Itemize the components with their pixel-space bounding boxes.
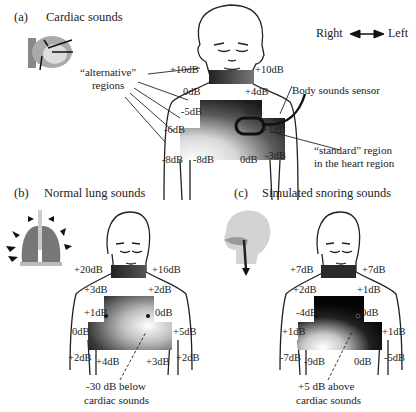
label-a-side-left: +1dB xyxy=(262,124,285,135)
annotation-c-note-2: cardiac sounds xyxy=(296,394,361,407)
label-c-mid-right: -4dB xyxy=(296,307,317,318)
neck-region-c xyxy=(321,265,356,278)
label-a-upper-right: 0dB xyxy=(183,86,201,97)
label-b-neck-right: +20dB xyxy=(74,264,103,275)
label-c-neck-left: +7dB xyxy=(362,264,385,275)
label-c-low-right-outer: -7dB xyxy=(280,352,301,363)
label-a-upper-left: +4dB xyxy=(245,86,268,97)
annotation-standard-region-2: in the heart region xyxy=(314,157,394,170)
label-c-neck-right: +7dB xyxy=(290,264,313,275)
label-c-low-left-inner: 0dB xyxy=(354,356,372,367)
label-a-side-right: -6dB xyxy=(164,124,185,135)
label-a-low-left-outer: -3dB xyxy=(265,150,286,161)
label-b-side-right: 0dB xyxy=(72,326,90,337)
heart-icon xyxy=(28,36,73,70)
neck-region-b xyxy=(111,265,146,278)
label-b-upper-right: +3dB xyxy=(84,284,107,295)
panel-c-title: Simulated snoring sounds xyxy=(262,186,391,201)
double-arrow-icon xyxy=(350,30,384,38)
annotation-c-note-1: +5 dB above xyxy=(298,380,354,393)
label-c-side-left: +1dB xyxy=(382,326,405,337)
label-a-low-left-inner: 0dB xyxy=(240,154,258,165)
label-c-side-right: +1dB xyxy=(282,326,305,337)
annotation-standard-region-1: “standard” region xyxy=(314,144,392,157)
label-a-mid-left: 0dB xyxy=(245,106,263,117)
panel-a-letter: (a) xyxy=(14,10,28,25)
label-b-low-left-inner: +3dB xyxy=(146,356,169,367)
label-c-mid-left: 0dB xyxy=(361,307,379,318)
chest-map-c xyxy=(298,296,382,350)
orientation-left-label: Left xyxy=(388,26,408,41)
neck-region-a xyxy=(209,70,254,84)
label-a-low-right-inner: -8dB xyxy=(193,154,214,165)
label-c-low-right-inner: -9dB xyxy=(304,356,325,367)
panel-a-title: Cardiac sounds xyxy=(46,10,123,25)
label-b-side-left: +5dB xyxy=(173,326,196,337)
label-a-low-right-outer: -8dB xyxy=(162,154,183,165)
lungs-icon xyxy=(6,210,72,266)
label-b-low-left-outer: +2dB xyxy=(176,352,199,363)
panel-c-letter: (c) xyxy=(234,186,248,201)
label-a-mid-right: -5dB xyxy=(181,106,202,117)
label-b-low-right-inner: +4dB xyxy=(96,356,119,367)
annotation-b-note-2: cardiac sounds xyxy=(84,394,149,407)
figure-artwork xyxy=(0,0,416,412)
annotation-b-note-1: -30 dB below xyxy=(86,380,146,393)
orientation-right-label: Right xyxy=(316,26,343,41)
panel-b-letter: (b) xyxy=(14,186,29,201)
head-airway-icon xyxy=(224,211,270,276)
label-a-neck-right: +10dB xyxy=(170,64,199,75)
label-b-low-right-outer: +2dB xyxy=(68,352,91,363)
label-b-neck-left: +16dB xyxy=(152,264,181,275)
label-b-mid-right: +1dB xyxy=(84,307,107,318)
panel-b-title: Normal lung sounds xyxy=(44,186,145,201)
label-c-upper-right: +2dB xyxy=(293,284,316,295)
label-b-upper-left: +2dB xyxy=(148,284,171,295)
chest-map-b xyxy=(88,296,172,350)
label-a-neck-left: +10dB xyxy=(255,64,284,75)
label-c-low-left-outer: -5dB xyxy=(384,352,405,363)
label-b-mid-left: 0dB xyxy=(155,307,173,318)
label-c-upper-left: +1dB xyxy=(357,284,380,295)
annotation-body-sounds-sensor: Body sounds sensor xyxy=(292,84,380,97)
annotation-alternative-regions: “alternative” regions xyxy=(80,66,136,92)
